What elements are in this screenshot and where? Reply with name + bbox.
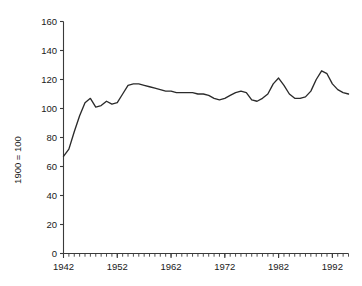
y-tick-label: 160 [41, 16, 57, 27]
data-line-series-0 [64, 71, 349, 157]
line-chart: 020406080100120140160 194219521962197219… [0, 0, 362, 286]
data-series-group [64, 71, 349, 157]
x-axis-tick-labels: 194219521962197219821992 [53, 261, 343, 272]
y-axis-tick-labels: 020406080100120140160 [41, 16, 57, 259]
x-tick-label: 1952 [107, 261, 128, 272]
y-axis-title: 1900 = 100 [12, 136, 23, 184]
y-tick-label: 100 [41, 103, 57, 114]
y-tick-label: 140 [41, 45, 57, 56]
x-tick-label: 1972 [214, 261, 235, 272]
x-tick-label: 1992 [322, 261, 343, 272]
y-tick-label: 120 [41, 74, 57, 85]
y-axis: 020406080100120140160 [41, 16, 63, 259]
y-tick-label: 40 [46, 190, 57, 201]
y-tick-label: 60 [46, 161, 57, 172]
x-tick-label: 1942 [53, 261, 74, 272]
x-tick-label: 1962 [160, 261, 181, 272]
y-tick-label: 20 [46, 219, 57, 230]
y-tick-label: 80 [46, 132, 57, 143]
y-tick-label: 0 [52, 248, 57, 259]
x-tick-label: 1982 [268, 261, 289, 272]
x-axis: 194219521962197219821992 [53, 254, 349, 272]
chart-container: 020406080100120140160 194219521962197219… [0, 0, 362, 286]
